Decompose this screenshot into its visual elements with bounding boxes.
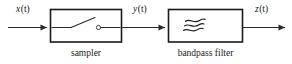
switch-contact-icon	[96, 25, 100, 29]
signal-label-intermediate: y(t)	[132, 4, 147, 15]
signal-label-output: z(t)	[254, 4, 268, 15]
signal-label-input: x(t)	[15, 4, 30, 15]
sampler-box[interactable]	[51, 10, 122, 43]
bandpass-filter-box[interactable]	[169, 10, 243, 43]
caption-bandpass-filter: bandpass filter	[178, 48, 235, 58]
block-bandpass-filter[interactable]	[169, 10, 243, 43]
output-arrowhead-icon	[279, 24, 286, 30]
output-wire-group	[243, 24, 286, 30]
signal-label-input-arg: (t)	[21, 4, 30, 15]
block-diagram: x(t) y(t) z(t) sampler bandpass filter	[0, 0, 292, 64]
block-sampler[interactable]	[51, 10, 122, 43]
input-arrowhead-icon	[41, 24, 48, 30]
caption-sampler: sampler	[71, 48, 102, 58]
signal-label-intermediate-arg: (t)	[138, 4, 147, 15]
intermediate-arrowhead-icon	[159, 24, 166, 30]
input-wire-group	[8, 24, 47, 30]
intermediate-wire-group	[122, 24, 166, 30]
diagram-canvas: x(t) y(t) z(t) sampler bandpass filter	[0, 0, 292, 64]
signal-label-output-arg: (t)	[259, 4, 268, 15]
